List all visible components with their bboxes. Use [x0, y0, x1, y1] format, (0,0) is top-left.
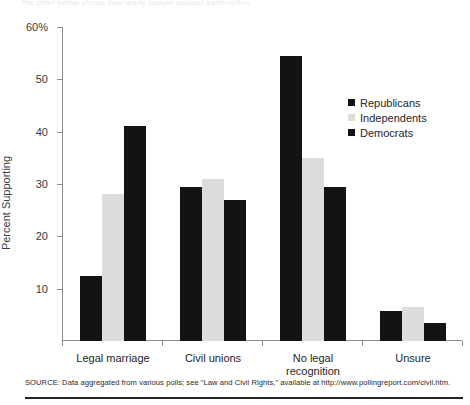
bottom-rule: [25, 397, 463, 399]
y-tick-label-20: 20: [36, 230, 48, 242]
legend-item-independents[interactable]: Independents: [348, 111, 427, 124]
y-tick-20: 20: [57, 236, 62, 237]
legend-swatch-icon: [348, 99, 355, 106]
y-tick-50: 50: [57, 79, 62, 80]
chart-figure: the chart below shows how many people su…: [0, 0, 470, 405]
bar-republicans-1: [80, 276, 102, 341]
y-tick-label-40: 40: [36, 126, 48, 138]
bar-democrats-4: [424, 323, 446, 341]
x-tick-2: [262, 341, 263, 346]
bar-republicans-4: [380, 311, 402, 341]
y-axis-label: Percent Supporting: [0, 155, 12, 249]
y-axis-line: [62, 27, 63, 341]
legend-label: Independents: [360, 112, 427, 124]
bar-democrats-1: [124, 126, 146, 341]
x-tick-3: [362, 341, 363, 346]
bar-independents-3: [302, 158, 324, 341]
y-tick-label-10: 10: [36, 283, 48, 295]
x-tick-0: [62, 341, 63, 346]
legend-label: Republicans: [360, 97, 421, 109]
legend-label: Democrats: [360, 127, 413, 139]
legend: RepublicansIndependentsDemocrats: [348, 96, 427, 141]
source-note: SOURCE: Data aggregated from various pol…: [25, 378, 450, 387]
legend-item-democrats[interactable]: Democrats: [348, 126, 427, 139]
top-caption: the chart below shows how many people su…: [22, 0, 322, 10]
y-tick-30: 30: [57, 184, 62, 185]
bar-republicans-3: [280, 56, 302, 341]
bar-democrats-2: [224, 200, 246, 341]
bar-independents-4: [402, 307, 424, 341]
x-tick-1: [162, 341, 163, 346]
y-tick-60: 60%: [57, 27, 62, 28]
category-label-4: Unsure: [353, 352, 470, 365]
plot-area: 60%5040302010: [62, 27, 462, 341]
y-tick-40: 40: [57, 132, 62, 133]
y-tick-label-50: 50: [36, 73, 48, 85]
legend-swatch-icon: [348, 129, 355, 136]
y-tick-label-60: 60%: [26, 21, 48, 33]
y-tick-10: 10: [57, 289, 62, 290]
bar-independents-2: [202, 179, 224, 341]
y-tick-label-30: 30: [36, 178, 48, 190]
bar-democrats-3: [324, 187, 346, 341]
x-tick-4: [462, 341, 463, 346]
bar-independents-1: [102, 194, 124, 341]
legend-swatch-icon: [348, 114, 355, 121]
bar-republicans-2: [180, 187, 202, 341]
legend-item-republicans[interactable]: Republicans: [348, 96, 427, 109]
